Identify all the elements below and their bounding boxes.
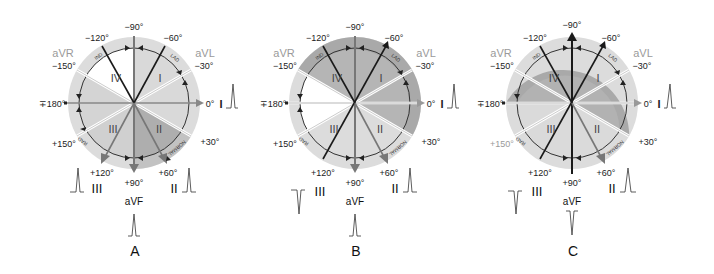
deg-plus120: +120° [311,168,335,178]
deg-minus60: −60° [385,33,404,43]
lead-iii-waveform [70,168,84,192]
lead-iii-label: III [92,181,103,196]
deg-minus90: −90° [125,22,144,32]
lead-i-waveform [664,84,676,108]
panel-a: IV I III II IND LAD RAD NORMAL −90° −120… [0,0,238,274]
panel-b: IV I III II IND LAD RAD NORMAL −90° −120… [221,0,459,274]
deg-minus30: −30° [416,61,435,71]
lead-ii-waveform [182,168,196,192]
deg-plus90: +90° [563,178,582,188]
sector-label-i: I [158,72,161,84]
lead-i-arrow-icon [417,99,425,107]
hexaxial-diagram-c: IV I III II IND LAD RAD NORMAL −90° −120… [438,0,676,274]
sector-label-iv: IV [332,72,343,84]
sector-label-iv: IV [549,72,560,84]
lead-avf-waveform [128,214,140,236]
lead-avf-label: aVF [125,196,143,207]
deg-minus60: −60° [164,33,183,43]
sector-label-i: I [379,72,382,84]
deg-180: ∓180° [260,99,287,109]
sector-label-iv: IV [111,72,122,84]
deg-minus30: −30° [195,61,214,71]
lead-avl-label: aVL [633,47,653,59]
hexaxial-diagram-b: IV I III II IND LAD RAD NORMAL −90° −120… [221,0,459,274]
deg-plus60: +60° [159,168,178,178]
deg-plus150: +150° [273,139,297,149]
deg-minus90: −90° [346,22,365,32]
deg-minus60: −60° [602,33,621,43]
panel-label-a: A [130,243,140,259]
deg-plus90: +90° [346,178,365,188]
panel-label-b: B [351,243,360,259]
deg-plus60: +60° [597,168,616,178]
sector-label-i: I [596,72,599,84]
deg-minus120: −120° [306,33,330,43]
deg-plus30: +30° [639,137,658,147]
lead-avr-label: aVR [490,47,511,59]
lead-avl-label: aVL [416,47,436,59]
deg-minus90: −90° [563,20,582,30]
deg-plus150: +150° [490,139,514,149]
axis-minus90-arrow-icon [567,32,577,41]
deg-minus150: −150° [490,61,514,71]
deg-plus120: +120° [90,168,114,178]
sector-label-ii: II [156,123,162,135]
deg-plus30: +30° [201,137,220,147]
lead-i-arrow-icon [634,99,642,107]
deg-180: ∓180° [39,99,66,109]
lead-avr-label: aVR [52,47,73,59]
lead-iii-waveform [508,191,522,214]
lead-ii-label: II [608,181,615,196]
deg-180: ∓180° [477,99,504,109]
sector-label-iii: III [108,123,117,135]
lead-avf-waveform [349,214,361,236]
hexaxial-diagram-a: IV I III II IND LAD RAD NORMAL −90° −120… [0,0,238,274]
deg-zero: 0° [206,99,215,109]
lead-iii-label: III [315,184,326,199]
sector-label-iii: III [546,123,555,135]
deg-minus150: −150° [52,61,76,71]
sector-label-iii: III [329,123,338,135]
panel-c: IV I III II IND LAD RAD NORMAL −90° −120… [438,0,676,274]
lead-ii-waveform [620,168,636,192]
sector-label-ii: II [594,123,600,135]
lead-ii-label: II [391,181,398,196]
deg-minus150: −150° [273,61,297,71]
panel-label-c: C [568,243,578,259]
deg-minus120: −120° [85,33,109,43]
lead-iii-waveform [291,190,305,214]
lead-avf-label: aVF [563,196,581,207]
lead-avr-label: aVR [273,47,294,59]
deg-plus60: +60° [380,168,399,178]
lead-avl-label: aVL [195,47,215,59]
sector-label-ii: II [377,123,383,135]
deg-zero: 0° [427,99,436,109]
lead-i-arrow-icon [196,99,204,107]
lead-ii-label: II [170,181,177,196]
deg-plus150: +150° [52,139,76,149]
lead-ii-waveform [403,168,417,192]
lead-iii-label: III [532,184,543,199]
lead-avf-waveform [566,211,578,235]
deg-plus120: +120° [528,168,552,178]
deg-zero: 0° [644,99,653,109]
deg-minus30: −30° [633,61,652,71]
deg-plus90: +90° [125,178,144,188]
deg-minus120: −120° [523,33,547,43]
lead-avf-label: aVF [346,196,364,207]
lead-i-label: I [657,98,660,110]
